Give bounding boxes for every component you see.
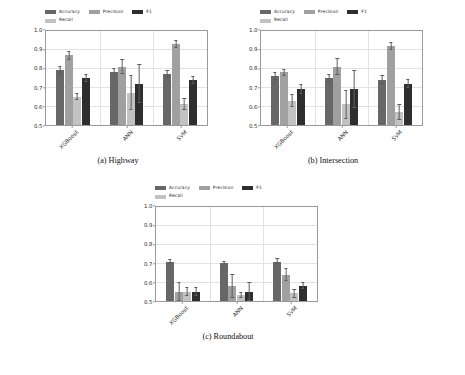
legend-label: Accuracy [169,186,190,190]
bar-slot [127,31,135,125]
y-axis-tick-label: 0.8 [249,65,258,71]
bar-slot [333,31,341,125]
error-bar-cap [336,74,339,75]
bar-slot [110,31,118,125]
subplot-highway: AccuracyPrecisionF1Recall0.50.60.70.80.9… [18,8,218,183]
y-axis-tick-label: 0.5 [144,299,153,305]
x-axis-tick-mark [126,126,127,128]
error-bar-cap [129,109,132,110]
bar-slot [118,31,126,125]
y-axis-tick-label: 0.7 [34,85,43,91]
legend-label: Recall [169,194,183,198]
y-axis-tick-label: 0.5 [249,123,258,129]
subplot-roundabout: AccuracyPrecisionF1Recall0.50.60.70.80.9… [128,184,328,359]
error-bar-cap [344,90,347,91]
chart-legend: AccuracyPrecisionF1Recall [45,10,210,23]
legend-item-precision: Precision [304,10,339,14]
legend-item-precision: Precision [199,186,234,190]
y-axis-tick-label: 0.5 [34,123,43,129]
bar-slot [220,207,228,301]
bar-f1 [189,80,197,125]
legend-item-recall: Recall [155,194,183,198]
x-axis-tick-label-xgboost: XGBoost [273,129,294,150]
y-axis-tick-label: 0.6 [144,280,153,286]
legend-item-accuracy: Accuracy [155,186,190,190]
error-bar-cap [389,49,392,50]
legend-label: Precision [318,10,339,14]
error-bar-cap [121,73,124,74]
bar-slot [183,207,191,301]
bar-slot [175,207,183,301]
y-axis-tick-label: 0.8 [144,241,153,247]
error-bar-cap [406,87,409,88]
bar-f1 [404,84,412,125]
x-axis-tick-mark [181,126,182,128]
legend-swatch-accuracy [155,186,166,190]
bar-slot [387,31,395,125]
legend-swatch-accuracy [260,10,271,14]
error-bar-cap [191,83,194,84]
bar-slot [73,31,81,125]
bar-group-ann [325,31,359,125]
bar-accuracy [220,263,228,301]
legend-item-f1: F1 [347,10,367,14]
error-bar-cap [301,282,304,283]
error-bar-cap [381,83,384,84]
bar-accuracy [325,78,333,125]
bar-precision [172,44,180,125]
legend-item-f1: F1 [132,10,152,14]
error-bar-cap [284,268,287,269]
error-bar-cap [183,98,186,99]
bar-groups [261,31,422,125]
subplot-caption: (c) Roundabout [128,332,328,341]
legend-item-recall: Recall [260,18,288,22]
bar-groups [156,207,317,301]
error-bar-cap [174,40,177,41]
bar-group-ann [220,207,254,301]
bar-accuracy [271,76,279,125]
bar-precision [65,55,73,125]
bar-slot [135,31,143,125]
x-axis-tick-label-ann: ANN [121,129,134,142]
error-bar-cap [222,261,225,262]
x-axis-tick-label-svm: SVM [285,305,298,318]
error-bar [178,282,179,301]
error-bar-cap [239,292,242,293]
legend-item-recall: Recall [45,18,73,22]
error-bar-cap [248,282,251,283]
bar-group-xgboost [56,31,90,125]
error-bar-cap [58,66,61,67]
legend-swatch-recall [155,195,166,199]
error-bar-cap [290,106,293,107]
subplot-caption: (a) Highway [18,156,218,165]
error-bar-cap [381,75,384,76]
error-bar-cap [166,70,169,71]
error-bar-cap [284,280,287,281]
y-axis-tick-label: 0.8 [34,65,43,71]
error-bar-cap [112,75,115,76]
error-bar-cap [231,297,234,298]
legend-swatch-recall [45,19,56,23]
error-bar-cap [406,79,409,80]
error-bar-cap [389,42,392,43]
legend-label: Precision [103,10,124,14]
plot-wrapper: 0.50.60.70.80.91.0XGBoostANNSVM [155,206,318,302]
bar-slot [395,31,403,125]
legend-swatch-precision [304,10,315,14]
error-bar [249,282,250,301]
y-axis-tick-label: 0.9 [144,222,153,228]
error-bar-cap [353,70,356,71]
x-axis-tick-mark [341,126,342,128]
error-bar-cap [282,75,285,76]
error-bar-cap [58,73,61,74]
legend-swatch-precision [199,186,210,190]
legend-swatch-precision [89,10,100,14]
bar-slot [65,31,73,125]
bar-slot [245,207,253,301]
error-bar-cap [353,107,356,108]
bar-group-svm [378,31,412,125]
error-bar-cap [276,263,279,264]
bar-accuracy [56,70,64,125]
error-bar-cap [231,274,234,275]
legend-swatch-f1 [347,10,358,14]
